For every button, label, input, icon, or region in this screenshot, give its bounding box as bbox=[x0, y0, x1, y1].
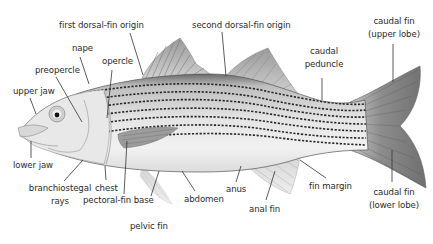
label-upper-jaw: upper jaw bbox=[13, 85, 55, 98]
label-pelvic-fin: pelvic fin bbox=[130, 220, 168, 233]
label-caudal-peduncle: caudal peduncle bbox=[305, 45, 344, 71]
label-anus: anus bbox=[226, 183, 246, 196]
label-preopercle: preopercle bbox=[35, 64, 80, 77]
first-dorsal-fin bbox=[142, 38, 212, 78]
fish-anatomy-diagram: first dorsal-fin origin second dorsal-fi… bbox=[0, 0, 433, 244]
label-caudal-fin-lower-lobe: caudal fin (lower lobe) bbox=[369, 186, 419, 212]
label-first-dorsal-fin-origin: first dorsal-fin origin bbox=[59, 19, 144, 32]
label-branchiostegal-rays: branchiostegal rays bbox=[29, 182, 91, 208]
label-nape: nape bbox=[72, 42, 93, 55]
label-lower-jaw: lower jaw bbox=[13, 159, 53, 172]
label-second-dorsal-fin-origin: second dorsal-fin origin bbox=[192, 19, 291, 32]
label-anal-fin: anal fin bbox=[249, 203, 280, 216]
fish-body bbox=[18, 74, 368, 172]
label-pectoral-fin-base: pectoral-fin base bbox=[83, 194, 154, 207]
label-opercle: opercle bbox=[102, 55, 133, 68]
label-abdomen: abdomen bbox=[184, 193, 224, 206]
label-caudal-fin-upper-lobe: caudal fin (upper lobe) bbox=[368, 15, 420, 41]
label-fin-margin: fin margin bbox=[309, 180, 352, 193]
